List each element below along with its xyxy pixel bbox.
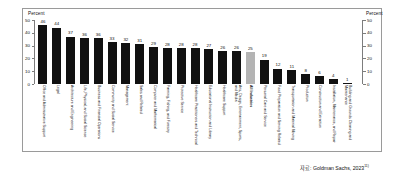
category-tick: Transportation and Material Moving [285, 85, 299, 149]
axis-tick-label: 40 [22, 30, 30, 35]
category-tick: Life, Physical, and Social Science [77, 85, 91, 149]
bar-value-label: 44 [54, 21, 59, 26]
category-label: Installation, Maintenance, and Repair [331, 85, 335, 147]
bar-item[interactable]: 46 [36, 20, 50, 84]
bar-item[interactable]: 29 [147, 20, 161, 84]
bar-item[interactable]: 44 [50, 20, 64, 84]
category-tick: Production [299, 85, 313, 149]
axis-tick-label: 50 [22, 18, 30, 23]
category-label: Protective Service [179, 85, 183, 147]
bar-item[interactable]: 6 [313, 20, 327, 84]
category-tick: Farming, Fishing, and Forestry [160, 85, 174, 149]
bar-item[interactable]: 11 [285, 20, 299, 84]
right-axis-title: Percent [366, 11, 383, 16]
axis-tick-label: 30 [22, 43, 30, 48]
category-tick: Computer and Mathematical [147, 85, 161, 149]
bar[interactable] [204, 49, 213, 84]
bar[interactable] [329, 79, 338, 84]
category-label: Building and Grounds Cleaning and Mainte… [343, 85, 351, 147]
category-tick: Construction and Extraction [313, 85, 327, 149]
axis-tick [363, 58, 366, 59]
category-labels: Office and Administrative SupportLegalAr… [36, 85, 354, 149]
bar-item[interactable]: 19 [257, 20, 271, 84]
category-tick: Legal [50, 85, 64, 149]
category-tick: Office and Administrative Support [36, 85, 50, 149]
category-label: Construction and Extraction [318, 85, 322, 147]
bar-item[interactable]: 31 [133, 20, 147, 84]
category-label: Healthcare Practitioners and Technical [193, 85, 197, 147]
bar-item[interactable]: 28 [174, 20, 188, 84]
axis-tick-label: 10 [22, 69, 30, 74]
bar-item[interactable]: 27 [202, 20, 216, 84]
bar[interactable] [135, 44, 144, 84]
bar-item[interactable]: 1 [340, 20, 354, 84]
bar[interactable] [52, 28, 61, 84]
category-label: Farming, Fishing, and Forestry [165, 85, 169, 147]
bar[interactable] [149, 47, 158, 84]
category-label: Office and Administrative Support [41, 85, 45, 147]
category-label: Food Preparation and Serving Related [276, 85, 280, 147]
bar-value-label: 27 [206, 43, 211, 48]
footnote-marker: 11) [364, 164, 369, 168]
category-label: Legal [55, 85, 59, 147]
category-label: Business and Financial Operations [96, 85, 100, 147]
bar-item[interactable]: 36 [77, 20, 91, 84]
category-tick: Protective Service [174, 85, 188, 149]
bar[interactable] [177, 48, 186, 84]
bar-item[interactable]: 28 [188, 20, 202, 84]
bar-all-industries[interactable] [246, 52, 255, 84]
bar[interactable] [66, 37, 75, 84]
axis-tick-label: 40 [367, 30, 372, 35]
bar-value-label: 37 [68, 30, 73, 35]
bar[interactable] [163, 48, 172, 84]
bar[interactable] [121, 43, 130, 84]
bar-value-label: 26 [234, 45, 239, 50]
category-label: Production [304, 85, 308, 147]
category-tick: Management [119, 85, 133, 149]
bar[interactable] [260, 60, 269, 84]
bar[interactable] [218, 51, 227, 84]
bar-value-label: 36 [82, 32, 87, 37]
bar[interactable] [315, 76, 324, 84]
bar[interactable] [301, 74, 310, 84]
category-tick: Sales and Related [133, 85, 147, 149]
bar-item[interactable]: 36 [91, 20, 105, 84]
category-label: All Industries [248, 85, 252, 147]
bar-item[interactable]: 37 [64, 20, 78, 84]
source-note: 자료: Goldman Sachs, 202311) [300, 164, 369, 171]
bar-value-label: 36 [96, 32, 101, 37]
bar[interactable] [343, 83, 352, 84]
category-label: Computer and Mathematical [152, 85, 156, 147]
bar[interactable] [273, 69, 282, 84]
bar[interactable] [38, 25, 47, 84]
bar-value-label: 46 [40, 19, 45, 24]
axis-tick [363, 71, 366, 72]
category-tick: Food Preparation and Serving Related [271, 85, 285, 149]
bar-item[interactable]: 26 [230, 20, 244, 84]
bar-value-label: 29 [151, 41, 156, 46]
bar-value-label: 31 [137, 38, 142, 43]
bar[interactable] [108, 42, 117, 84]
bar-value-label: 28 [193, 42, 198, 47]
category-tick: Building and Grounds Cleaning and Mainte… [340, 85, 354, 149]
bar-item[interactable]: 12 [271, 20, 285, 84]
bar[interactable] [232, 51, 241, 84]
chart-figure: Percent Percent 50403020100 50403020100 … [0, 0, 403, 183]
bar[interactable] [287, 70, 296, 84]
axis-tick-label: 0 [22, 82, 30, 87]
bar-item[interactable]: 8 [299, 20, 313, 84]
bar[interactable] [80, 38, 89, 84]
bar[interactable] [191, 48, 200, 84]
bar-item[interactable]: 26 [216, 20, 230, 84]
bar-value-label: 28 [179, 42, 184, 47]
bar-value-label: 1 [346, 77, 348, 82]
bar-item[interactable]: 4 [326, 20, 340, 84]
bar-item[interactable]: 32 [119, 20, 133, 84]
bar-item[interactable]: 33 [105, 20, 119, 84]
axis-tick [32, 84, 35, 85]
bar-item[interactable]: 28 [160, 20, 174, 84]
category-label: Management [124, 85, 128, 147]
bar[interactable] [94, 38, 103, 84]
bar-item[interactable]: 25 [243, 20, 257, 84]
bar-value-label: 25 [248, 46, 253, 51]
